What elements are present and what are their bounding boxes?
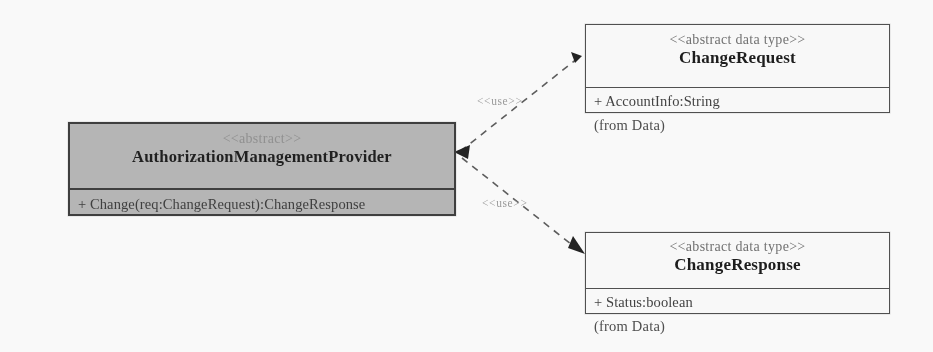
class-member: + Change(req:ChangeRequest):ChangeRespon… — [70, 196, 454, 213]
relationship-label-use-change-request: <<use>> — [477, 95, 522, 107]
class-name: AuthorizationManagementProvider — [132, 147, 392, 167]
class-name-compartment: <<abstract data type>> ChangeRequest — [586, 25, 889, 87]
class-member: + Status:boolean — [586, 294, 889, 311]
class-stereotype: <<abstract data type>> — [669, 239, 805, 255]
class-members-compartment: + Change(req:ChangeRequest):ChangeRespon… — [70, 188, 454, 218]
class-box-authorization-management-provider[interactable]: <<abstract>> AuthorizationManagementProv… — [68, 122, 456, 216]
class-member: + AccountInfo:String — [586, 93, 889, 110]
class-stereotype: <<abstract data type>> — [669, 32, 805, 48]
class-name-compartment: <<abstract>> AuthorizationManagementProv… — [70, 124, 454, 188]
class-name: ChangeResponse — [674, 255, 801, 275]
class-members-compartment: + Status:boolean — [586, 288, 889, 315]
class-name: ChangeRequest — [679, 48, 796, 68]
class-box-change-response[interactable]: <<abstract data type>> ChangeResponse + … — [585, 232, 890, 314]
class-from-package-change-response: (from Data) — [594, 318, 665, 335]
uml-class-diagram-canvas: <<use>> <<use>> <<abstract>> Authorizati… — [0, 0, 933, 352]
relationship-label-use-change-response: <<use>> — [482, 197, 527, 209]
class-members-compartment: + AccountInfo:String — [586, 87, 889, 114]
class-stereotype: <<abstract>> — [223, 131, 302, 147]
class-from-package-change-request: (from Data) — [594, 117, 665, 134]
class-name-compartment: <<abstract data type>> ChangeResponse — [586, 233, 889, 288]
class-box-change-request[interactable]: <<abstract data type>> ChangeRequest + A… — [585, 24, 890, 113]
